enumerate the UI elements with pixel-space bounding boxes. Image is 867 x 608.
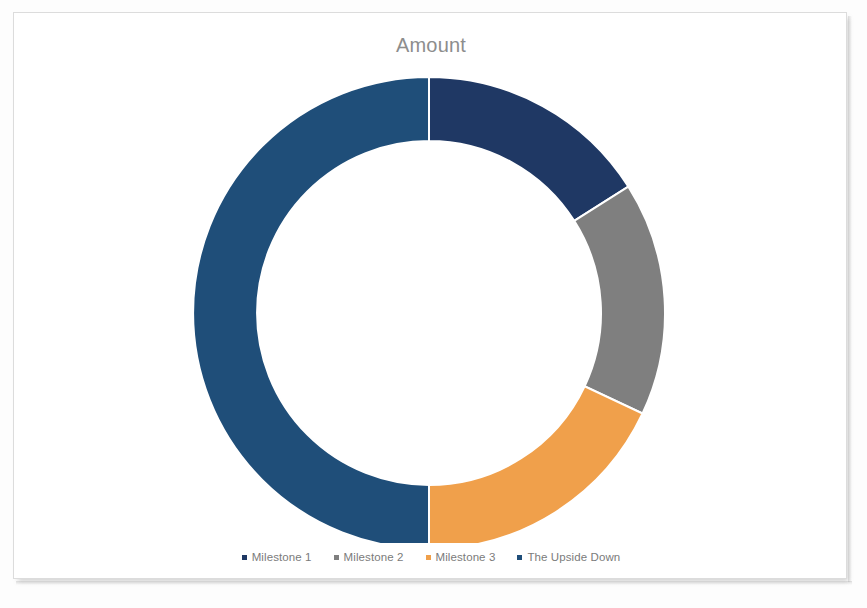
legend-item[interactable]: Milestone 3	[426, 551, 496, 563]
donut-slice[interactable]	[193, 77, 429, 543]
donut-slice[interactable]	[574, 187, 665, 414]
legend-item-label: Milestone 1	[252, 551, 312, 563]
legend-item[interactable]: The Upside Down	[517, 551, 620, 563]
legend-item-label: Milestone 2	[344, 551, 404, 563]
legend-item-label: Milestone 3	[436, 551, 496, 563]
page-shadow-right	[848, 16, 852, 582]
legend-swatch-icon	[242, 555, 247, 560]
page-shadow-bottom	[16, 581, 852, 585]
donut-chart-svg	[14, 13, 848, 543]
legend-item-label: The Upside Down	[527, 551, 620, 563]
legend-item[interactable]: Milestone 2	[334, 551, 404, 563]
donut-chart-plot-area[interactable]	[14, 13, 848, 543]
legend-swatch-icon	[517, 555, 522, 560]
chart-legend[interactable]: Milestone 1Milestone 2Milestone 3The Ups…	[14, 551, 848, 563]
chart-container[interactable]: Amount Milestone 1Milestone 2Milestone 3…	[13, 12, 847, 579]
legend-swatch-icon	[426, 555, 431, 560]
legend-swatch-icon	[334, 555, 339, 560]
donut-slice-group	[193, 77, 665, 543]
legend-item[interactable]: Milestone 1	[242, 551, 312, 563]
scanned-page-background: Amount Milestone 1Milestone 2Milestone 3…	[0, 0, 867, 608]
donut-slice[interactable]	[429, 386, 643, 543]
donut-slice[interactable]	[429, 77, 628, 221]
